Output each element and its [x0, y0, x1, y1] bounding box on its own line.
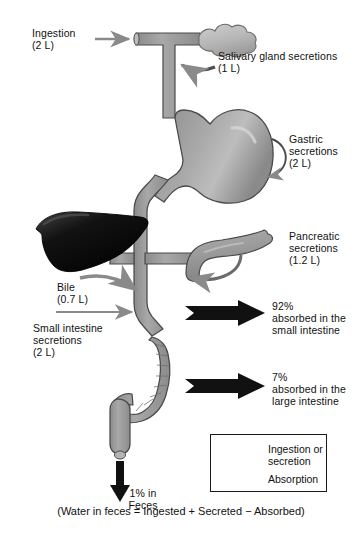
- label-absorbed-small-intestine: 92% absorbed in the small intestine: [272, 300, 346, 337]
- arrow-bile: [80, 276, 136, 290]
- label-gastric-secretions: Gastric secretions (2 L): [289, 133, 338, 170]
- arrow-absorbed-small-intestine: [185, 300, 265, 326]
- large-intestine-shape: [110, 337, 170, 459]
- label-salivary-gland: Salivary gland secretions (1 L): [218, 50, 337, 74]
- label-ingestion: Ingestion (2 L): [32, 27, 76, 51]
- legend-item-ingestion-or-secretion: Ingestion or secretion: [268, 443, 323, 467]
- label-small-intestine-secretions: Small intestine secretions (2 L): [33, 322, 103, 359]
- label-absorbed-large-intestine: 7% absorbed in the large intestine: [272, 371, 346, 408]
- label-pancreatic-secretions: Pancreatic secretions (1.2 L): [289, 230, 340, 267]
- label-bile: Bile (0.7 L): [57, 281, 88, 305]
- water-balance-equation: (Water in feces = Ingested + Secreted − …: [0, 505, 362, 517]
- diagram-canvas: Ingestion (2 L) Salivary gland secretion…: [0, 0, 362, 536]
- stomach-shape: [155, 110, 273, 204]
- legend-item-absorption: Absorption: [268, 473, 318, 485]
- mouth-esophagus-shape: [134, 33, 200, 118]
- arrow-absorbed-large-intestine: [185, 373, 265, 399]
- arrow-salivary: [182, 65, 215, 70]
